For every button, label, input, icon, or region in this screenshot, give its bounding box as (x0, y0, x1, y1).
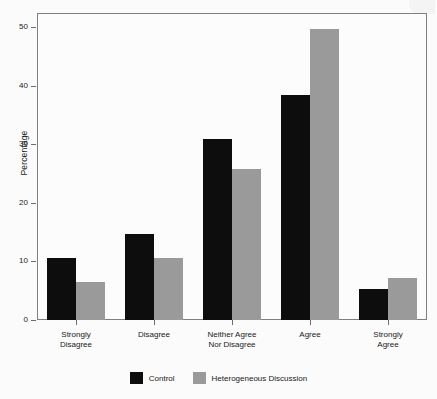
x-tick-label-line: Disagree (28, 340, 124, 350)
bar (154, 258, 183, 320)
y-tick-mark (31, 320, 36, 321)
bar (203, 139, 232, 320)
bars-layer (0, 0, 437, 320)
legend-item: Heterogeneous Discussion (193, 372, 308, 384)
legend-label: Control (149, 374, 175, 383)
x-tick-mark (310, 320, 311, 325)
x-tick-label-line: Strongly (340, 330, 436, 340)
x-tick-label-line: Agree (340, 340, 436, 350)
legend-swatch (130, 372, 143, 384)
bar (281, 95, 310, 320)
legend-swatch (193, 372, 206, 384)
x-tick-mark (154, 320, 155, 325)
bar (47, 258, 76, 320)
x-tick-label: StronglyAgree (340, 330, 436, 349)
bar (388, 278, 417, 320)
bar (76, 282, 105, 320)
x-tick-mark (232, 320, 233, 325)
bar (359, 289, 388, 320)
bar (125, 234, 154, 320)
bar (232, 169, 261, 320)
x-tick-mark (388, 320, 389, 325)
chart-legend: ControlHeterogeneous Discussion (0, 372, 437, 384)
legend-item: Control (130, 372, 175, 384)
legend-label: Heterogeneous Discussion (212, 374, 308, 383)
bar (310, 29, 339, 320)
x-tick-mark (76, 320, 77, 325)
bar-chart-figure: Percentage 01020304050 StronglyDisagreeD… (0, 0, 437, 399)
x-tick-label-line: Nor Disagree (184, 340, 280, 350)
